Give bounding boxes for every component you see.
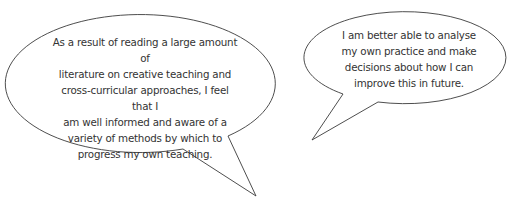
- text-line: am well informed and aware of a: [50, 114, 240, 130]
- text-line: cross-curricular approaches, I feel that…: [50, 82, 240, 114]
- text-line: progress my own teaching.: [50, 146, 240, 162]
- text-line: literature on creative teaching and: [50, 66, 240, 82]
- text-line: improve this in future.: [334, 75, 484, 91]
- text-line: my own practice and make: [334, 43, 484, 59]
- text-line: decisions about how I can: [334, 59, 484, 75]
- text-line: As a result of reading a large amount of: [50, 34, 240, 66]
- right-bubble-text: I am better able to analyse my own pract…: [334, 27, 484, 91]
- text-line: variety of methods by which to: [50, 130, 240, 146]
- left-bubble-text: As a result of reading a large amount of…: [50, 34, 240, 162]
- text-line: I am better able to analyse: [334, 27, 484, 43]
